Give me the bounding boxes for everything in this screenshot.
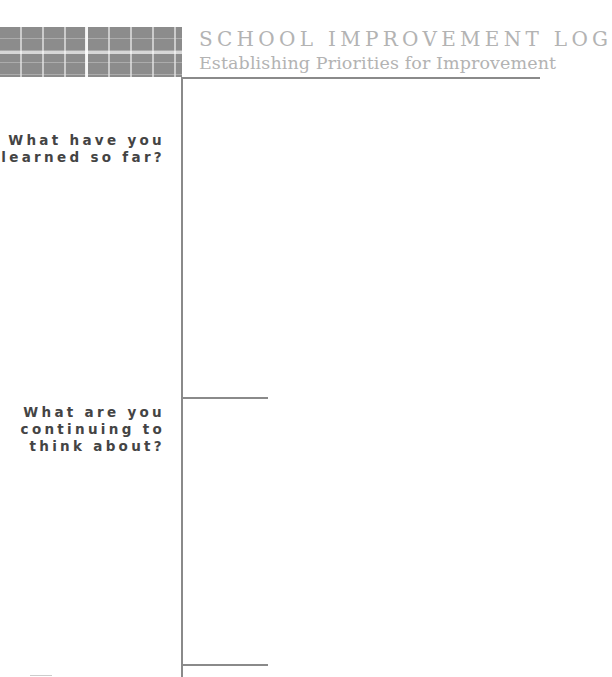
footer-mark: [30, 675, 52, 676]
page-title: SCHOOL IMPROVEMENT LOG: [199, 27, 612, 51]
section-divider-2: [182, 664, 268, 666]
header-divider: [182, 77, 540, 79]
header-grid-graphic: [0, 27, 182, 77]
prompt-learned-so-far: What have you learned so far?: [1, 132, 165, 166]
prompt-continuing-to-think: What are you continuing to think about?: [21, 404, 165, 455]
section-divider-1: [182, 397, 268, 399]
column-divider: [181, 77, 183, 677]
page-subtitle: Establishing Priorities for Improvement: [199, 52, 556, 74]
